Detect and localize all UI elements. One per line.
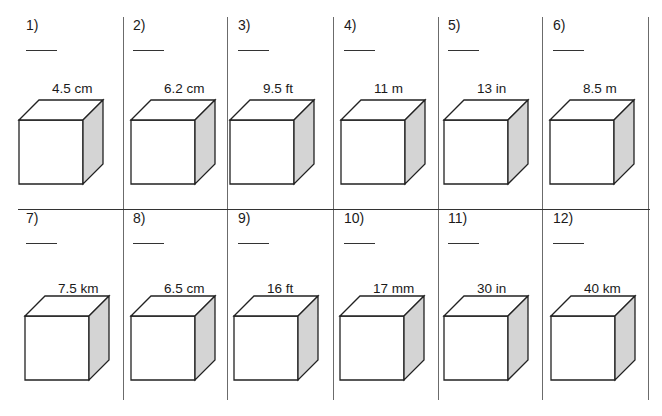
cube-figure — [233, 295, 319, 381]
cube-figure — [340, 99, 426, 185]
cube-figure — [339, 295, 425, 381]
answer-blank[interactable] — [553, 243, 584, 244]
answer-blank[interactable] — [238, 50, 269, 51]
side-length-label: 6.5 cm — [164, 281, 205, 296]
problem-cell: 4)11 m — [337, 17, 441, 207]
cube-front-face — [444, 316, 508, 380]
answer-blank[interactable] — [448, 243, 479, 244]
answer-blank[interactable] — [344, 243, 375, 244]
problem-cell: 1)4.5 cm — [19, 17, 123, 207]
cube-figure — [550, 295, 636, 381]
cube-figure — [130, 99, 216, 185]
side-length-label: 9.5 ft — [263, 81, 293, 96]
side-length-label: 13 in — [477, 81, 506, 96]
cube-front-face — [19, 120, 83, 184]
problem-cell: 8)6.5 cm — [126, 210, 230, 400]
problem-number: 9) — [238, 210, 250, 226]
answer-blank[interactable] — [238, 243, 269, 244]
problem-number: 6) — [553, 17, 565, 33]
problem-cell: 5)13 in — [441, 17, 545, 207]
problem-cell: 10)17 mm — [337, 210, 441, 400]
side-length-label: 6.2 cm — [164, 81, 205, 96]
cube-front-face — [444, 120, 508, 184]
cube-front-face — [234, 316, 298, 380]
side-length-label: 4.5 cm — [52, 81, 93, 96]
problem-number: 11) — [448, 210, 467, 226]
cube-front-face — [131, 120, 195, 184]
problem-number: 3) — [238, 17, 250, 33]
problem-number: 7) — [26, 210, 38, 226]
problem-cell: 6)8.5 m — [546, 17, 650, 207]
problem-cell: 11)30 in — [441, 210, 545, 400]
cube-front-face — [131, 316, 195, 380]
answer-blank[interactable] — [133, 243, 164, 244]
problem-cell: 3)9.5 ft — [231, 17, 335, 207]
side-length-label: 40 km — [584, 281, 621, 296]
problem-number: 5) — [448, 17, 460, 33]
side-length-label: 17 mm — [373, 281, 414, 296]
cube-front-face — [341, 120, 405, 184]
cube-front-face — [340, 316, 404, 380]
cube-front-face — [550, 120, 614, 184]
cube-figure — [18, 99, 104, 185]
answer-blank[interactable] — [26, 243, 57, 244]
answer-blank[interactable] — [26, 50, 57, 51]
problem-cell: 2)6.2 cm — [126, 17, 230, 207]
answer-blank[interactable] — [344, 50, 375, 51]
cube-figure — [443, 295, 529, 381]
problem-number: 8) — [133, 210, 145, 226]
problem-cell: 12)40 km — [546, 210, 650, 400]
problem-number: 2) — [133, 17, 145, 33]
cube-front-face — [25, 316, 89, 380]
problem-cell: 7)7.5 km — [19, 210, 123, 400]
problem-number: 12) — [553, 210, 573, 226]
side-length-label: 30 in — [477, 281, 506, 296]
cube-figure — [443, 99, 529, 185]
answer-blank[interactable] — [448, 50, 479, 51]
cube-front-face — [551, 316, 615, 380]
cube-figure — [549, 99, 635, 185]
side-length-label: 11 m — [374, 81, 403, 96]
problem-cell: 9)16 ft — [231, 210, 335, 400]
problem-number: 4) — [344, 17, 356, 33]
cube-figure — [229, 99, 315, 185]
side-length-label: 8.5 m — [583, 81, 617, 96]
cube-front-face — [230, 120, 294, 184]
side-length-label: 16 ft — [267, 281, 293, 296]
answer-blank[interactable] — [553, 50, 584, 51]
problem-number: 1) — [26, 17, 38, 33]
cube-figure — [130, 295, 216, 381]
answer-blank[interactable] — [133, 50, 164, 51]
side-length-label: 7.5 km — [58, 281, 99, 296]
problem-number: 10) — [344, 210, 364, 226]
cube-figure — [24, 295, 110, 381]
